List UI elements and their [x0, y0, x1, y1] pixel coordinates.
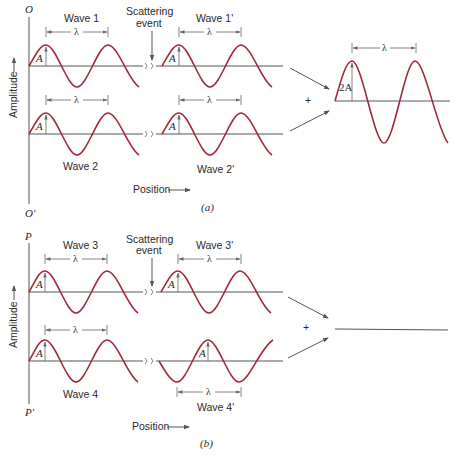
break-icon	[145, 289, 153, 295]
scattering-event-a: Scattering event	[126, 5, 173, 60]
amplitude-label: A	[35, 120, 43, 132]
combine-arrow-icon	[290, 68, 329, 89]
wavelength-label: λ	[74, 94, 79, 105]
wave-3: Wave 3 λ A	[29, 239, 153, 313]
wavelength-label: λ	[207, 253, 212, 264]
wave-4: λ A Wave 4	[29, 324, 153, 400]
wavelength-label: λ	[74, 26, 79, 37]
amplitude-label: A	[167, 278, 175, 290]
wave-1-prime-label: Wave 1'	[196, 12, 233, 24]
position-label: Position	[133, 183, 171, 195]
interference-diagram: O O' Amplitude Wave 1 λ A Scattering eve…	[0, 0, 463, 457]
break-icon	[145, 63, 153, 69]
wave-4-prime: A λ Wave 4'	[156, 340, 283, 413]
wave-2-prime-label: Wave 2'	[197, 163, 234, 175]
plus-sign: +	[305, 94, 311, 106]
origin-label-p: P	[24, 230, 32, 242]
origin-label-p-prime: P'	[24, 406, 35, 418]
wavelength-label: λ	[73, 253, 78, 264]
wave-4-label: Wave 4	[63, 388, 98, 400]
plus-sign: +	[303, 321, 309, 333]
wave-2-label: Wave 2	[63, 160, 98, 172]
wavelength-label: λ	[382, 42, 387, 53]
amplitude-axis-label: Amplitude	[7, 286, 19, 348]
caption-b: (b)	[200, 437, 213, 450]
break-icon	[145, 131, 153, 137]
amplitude-label: A	[35, 52, 43, 64]
panel-b: P P' Amplitude Wave 3 λ A Scattering eve…	[7, 230, 448, 450]
panel-a: O O' Amplitude Wave 1 λ A Scattering eve…	[7, 3, 450, 219]
wavelength-label: λ	[73, 324, 78, 335]
scattering-label: Scattering	[126, 5, 173, 17]
caption-a: (a)	[201, 201, 214, 214]
amplitude-label: A	[35, 347, 43, 359]
wave-2-prime: λ A Wave 2'	[156, 94, 283, 175]
resultant-wave-constructive: λ 2A	[335, 42, 450, 143]
wavelength-label: λ	[207, 94, 212, 105]
amplitude-label: A	[35, 278, 43, 290]
wave-1: Wave 1 λ A	[29, 12, 153, 87]
amplitude-axis-label: Amplitude	[7, 58, 19, 118]
combine-arrow-icon	[290, 111, 329, 131]
wave-2: λ A Wave 2	[29, 94, 153, 172]
wavelength-label: λ	[206, 386, 211, 397]
wave-3-prime-label: Wave 3'	[196, 239, 233, 251]
amplitude-label: A	[168, 120, 176, 132]
wave-4-prime-label: Wave 4'	[197, 401, 234, 413]
event-label: event	[136, 244, 162, 256]
wave-1-label: Wave 1	[64, 12, 99, 24]
break-icon	[145, 358, 153, 364]
wave-3-prime: Wave 3' λ A	[156, 239, 283, 313]
position-label: Position	[132, 420, 170, 432]
resultant-flat-line	[335, 329, 448, 330]
wavelength-label: λ	[207, 26, 212, 37]
amplitude-2a-label: 2A	[339, 81, 353, 93]
wave-1-prime: Wave 1' λ A	[156, 12, 283, 87]
origin-label-o-prime: O'	[25, 207, 36, 219]
origin-label-o: O	[25, 3, 33, 15]
wave-3-label: Wave 3	[63, 239, 98, 251]
amplitude-label-text: Amplitude	[7, 71, 19, 118]
combine-arrow-icon	[288, 338, 328, 358]
amplitude-label: A	[198, 347, 206, 359]
amplitude-label-text: Amplitude	[7, 301, 19, 348]
combine-arrow-icon	[288, 297, 328, 318]
scattering-event-b: Scattering event	[126, 233, 173, 286]
event-label: event	[136, 17, 162, 29]
amplitude-label: A	[168, 52, 176, 64]
